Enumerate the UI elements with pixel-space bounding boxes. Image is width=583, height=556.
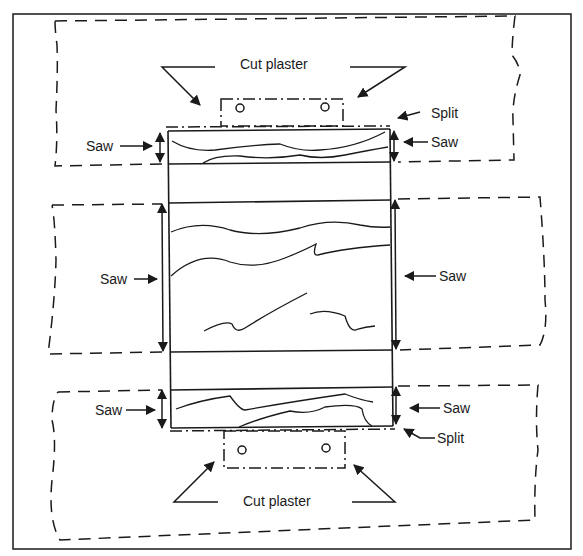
diagram-canvas: [0, 0, 583, 556]
bottom-dashdot-line: [170, 429, 395, 431]
bottom-window-hole-left: [238, 446, 246, 454]
saw-arrows: [160, 131, 396, 428]
top-window-hole-left: [236, 104, 244, 112]
specimen-column: [168, 129, 393, 428]
label-saw-bottom-right: Saw: [443, 401, 470, 415]
label-cut-plaster-bottom: Cut plaster: [243, 494, 311, 508]
label-saw-top-left: Saw: [86, 139, 113, 153]
label-saw-bottom-left: Saw: [95, 403, 122, 417]
label-cut-plaster-top: Cut plaster: [240, 57, 308, 71]
top-section-fractures: [172, 132, 388, 163]
label-split-bottom: Split: [437, 431, 464, 445]
bottom-section-fractures: [176, 394, 373, 427]
double-arrow-middle-left: [162, 204, 163, 351]
label-split-top: Split: [431, 106, 458, 120]
figure-frame: [13, 14, 571, 549]
middle-section-fractures: [171, 222, 390, 331]
bottom-cut-plaster-window: [224, 431, 345, 468]
label-saw-middle-right: Saw: [439, 269, 466, 283]
label-saw-top-right: Saw: [431, 135, 458, 149]
top-window-hole-right: [321, 103, 329, 111]
bottom-window-hole-right: [322, 444, 330, 452]
double-arrow-middle-right: [395, 200, 396, 349]
top-dashdot-line: [166, 126, 390, 127]
label-saw-middle-left: Saw: [100, 272, 127, 286]
